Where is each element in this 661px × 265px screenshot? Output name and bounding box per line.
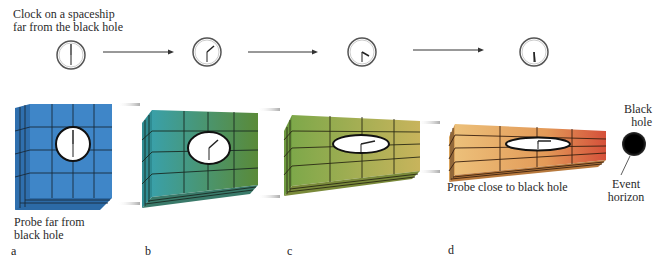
spaceship-clock-2	[193, 38, 221, 66]
probe-d-label: Probe close to black hole	[447, 181, 568, 194]
probe-d-clock	[506, 138, 570, 151]
event-horizon-pointer	[621, 156, 630, 175]
probe-c-clock	[333, 135, 389, 153]
probe-d-box	[449, 124, 606, 182]
probe-a-label: Probe far from black hole	[14, 216, 85, 242]
panel-letter-c: c	[287, 244, 292, 259]
spaceship-clock-3	[348, 38, 376, 66]
panel-letter-b: b	[145, 244, 151, 259]
probe-c-box	[284, 115, 420, 196]
black-hole-label: Black hole	[622, 103, 652, 129]
time-dilation-diagram	[0, 0, 661, 265]
probe-a-clock	[56, 127, 90, 161]
spaceship-clock-1	[57, 41, 85, 69]
black-hole-icon	[622, 132, 646, 156]
panel-letter-d: d	[448, 243, 454, 258]
spaceship-clock-4	[520, 38, 548, 66]
probe-b-clock	[188, 132, 230, 164]
event-horizon-label: Event horizon	[603, 178, 649, 204]
panel-letter-a: a	[11, 244, 16, 259]
